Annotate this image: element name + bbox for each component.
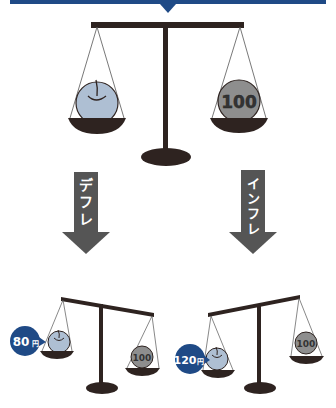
apple-icon bbox=[76, 80, 118, 124]
coin-icon: 100 bbox=[295, 332, 317, 354]
balance-scale-top: 100 bbox=[68, 22, 268, 166]
inflation-deflation-diagram: 100 デ フ レ イ ン フ レ 100 bbox=[0, 0, 336, 408]
svg-text:80: 80 bbox=[13, 335, 30, 349]
svg-text:イ: イ bbox=[247, 176, 260, 191]
svg-text:100: 100 bbox=[133, 353, 152, 363]
coin-icon: 100 bbox=[218, 80, 260, 122]
balance-scale-inflation: 100 120 円 bbox=[174, 295, 324, 394]
svg-text:120: 120 bbox=[174, 354, 197, 367]
coin-icon: 100 bbox=[131, 346, 153, 368]
svg-text:レ: レ bbox=[79, 211, 93, 227]
svg-text:円: 円 bbox=[32, 340, 39, 348]
inflation-arrow: イ ン フ レ bbox=[229, 170, 277, 254]
apple-icon bbox=[48, 330, 70, 353]
deflation-arrow: デ フ レ bbox=[62, 172, 110, 254]
header-banner bbox=[10, 0, 326, 13]
balance-scale-deflation: 100 80 円 bbox=[10, 297, 160, 394]
svg-text:100: 100 bbox=[221, 92, 257, 112]
svg-text:100: 100 bbox=[297, 339, 316, 349]
svg-text:ン: ン bbox=[247, 191, 260, 206]
price-badge-120: 120 円 bbox=[174, 344, 210, 374]
svg-text:デ: デ bbox=[79, 177, 94, 193]
svg-text:レ: レ bbox=[247, 221, 260, 236]
svg-text:フ: フ bbox=[79, 194, 93, 210]
svg-text:フ: フ bbox=[247, 206, 260, 221]
left-pan bbox=[68, 118, 126, 134]
right-pan bbox=[210, 118, 268, 133]
svg-text:円: 円 bbox=[197, 358, 204, 366]
